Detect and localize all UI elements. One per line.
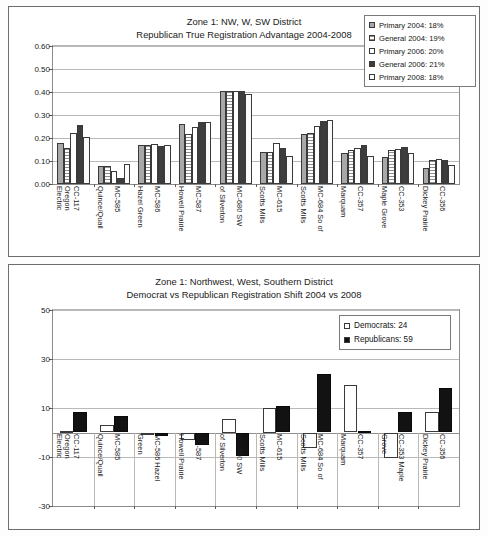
x-axis-label: Grove — [380, 434, 389, 454]
axis-notch — [418, 184, 419, 187]
gridline — [53, 408, 459, 409]
gridline — [53, 92, 459, 93]
legend-swatch-0 — [344, 323, 350, 329]
chart-subtitle-bottom: Democrat vs Republican Registration Shif… — [9, 288, 479, 301]
axis-notch — [378, 506, 379, 509]
legend-label-2: Primary 2006: 20% — [379, 47, 444, 56]
x-axis-label: Dickey Prairie — [421, 186, 430, 232]
axis-notch — [378, 184, 379, 187]
bar-top-g4-s4 — [245, 94, 252, 184]
axis-notch — [256, 184, 257, 187]
group-separator — [94, 433, 95, 507]
legend-item: General 2004: 19% — [369, 32, 470, 44]
bar-bottom-g5-s1 — [276, 406, 290, 433]
axis-notch — [297, 506, 298, 509]
x-axis-label: Scotts Mills — [299, 186, 308, 223]
bar-bottom-g7-s1 — [358, 431, 372, 433]
legend-item: Republicans: 59 — [344, 333, 445, 346]
x-axis-label: CC-357 — [356, 434, 365, 459]
chart-title-block-bottom: Zone 1: Northwest, West, Southern Distri… — [9, 275, 479, 301]
x-axis-label: CC-353 — [397, 186, 406, 211]
legend-label-0: Primary 2004: 18% — [379, 21, 444, 30]
x-axis-label: MC-684 So of — [316, 186, 325, 232]
screenshot-root: Zone 1: NW, W, SW District Republican Tr… — [0, 0, 488, 537]
x-axis-label: MC-586 — [153, 186, 162, 212]
group-separator — [418, 433, 419, 507]
chart-panel-top: Zone 1: NW, W, SW District Republican Tr… — [8, 6, 480, 257]
legend-swatch-1 — [369, 35, 375, 41]
x-axis-label: MC-587 — [194, 434, 203, 460]
legend-label-1: Republicans: 59 — [354, 335, 413, 344]
legend-swatch-2 — [369, 48, 375, 54]
x-axis-label: Quince/Quail — [96, 186, 105, 229]
x-axis-label: Green — [136, 434, 145, 455]
legend-label-4: Primary 2008: 18% — [379, 73, 444, 82]
y-tick-label-3: -10 — [38, 453, 50, 462]
bar-top-g8-s4 — [408, 153, 415, 184]
x-axis-label: MC-615 — [275, 186, 284, 212]
x-axis-label: MC-615 — [275, 434, 284, 460]
x-axis-label: Scotts Mills — [258, 186, 267, 223]
x-axis-label: CC-117 — [72, 434, 81, 459]
bar-bottom-g1-s1 — [114, 416, 128, 433]
x-axis-label: of Silverton — [218, 434, 227, 471]
chart-panel-bottom: Zone 1: Northwest, West, Southern Distri… — [8, 264, 480, 530]
gridline — [53, 138, 459, 139]
axis-notch — [175, 184, 176, 187]
y-tick-label-4: -30 — [38, 502, 50, 511]
bar-bottom-g9-s0 — [425, 412, 439, 433]
x-axis-label: Quince/Quail — [96, 434, 105, 477]
x-axis-label: MC-684 So of — [316, 434, 325, 480]
y-tick-label-4: 0.40 — [34, 88, 50, 97]
legend-item: Democrats: 24 — [344, 319, 445, 332]
bar-bottom-g0-s0 — [60, 431, 74, 433]
axis-notch — [94, 506, 95, 509]
y-tick-label-1: 0.10 — [34, 157, 50, 166]
legend-label-0: Democrats: 24 — [354, 321, 407, 330]
gridline — [53, 115, 459, 116]
axis-notch — [337, 506, 338, 509]
x-axis-label: Scotts Mills — [258, 434, 267, 471]
gridline — [53, 310, 459, 311]
x-axis-label: CC-356 — [438, 434, 447, 459]
group-separator — [256, 433, 257, 507]
x-axis-label: MC-587 — [194, 186, 203, 212]
x-axis-label: Howell Prairie — [177, 186, 186, 232]
axis-notch — [297, 184, 298, 187]
bar-top-g2-s4 — [164, 145, 171, 184]
legend-item: General 2006: 21% — [369, 58, 470, 70]
y-tick-label-5: 0.50 — [34, 65, 50, 74]
x-axis-label: MC-586 Hazel — [153, 434, 162, 481]
legend-label-3: General 2006: 21% — [379, 60, 444, 69]
y-tick-label-3: 0.30 — [34, 111, 50, 120]
bar-bottom-g6-s1 — [317, 374, 331, 433]
bar-top-g6-s4 — [327, 120, 334, 184]
bar-top-g1-s4 — [124, 164, 131, 184]
x-axis-label: MC-680 SW — [235, 434, 244, 474]
bar-bottom-g9-s1 — [439, 388, 453, 432]
x-axis-label: CC-357 — [356, 186, 365, 211]
bar-top-g3-s4 — [205, 122, 212, 184]
axis-notch — [175, 506, 176, 509]
bar-bottom-g1-s0 — [100, 425, 114, 433]
bar-bottom-g5-s0 — [263, 408, 277, 433]
group-separator — [215, 433, 216, 507]
y-tick-label-2: 10 — [41, 404, 50, 413]
x-axis-label: Howell Prairie — [177, 434, 186, 480]
legend-label-1: General 2004: 19% — [379, 34, 444, 43]
bar-bottom-g4-s0 — [222, 419, 236, 433]
x-axis-label: MC-680 SW — [235, 186, 244, 226]
bar-bottom-g7-s0 — [344, 385, 358, 433]
x-axis-label: CC-117 — [72, 186, 81, 211]
bar-top-g5-s4 — [286, 156, 293, 184]
bar-bottom-g0-s1 — [73, 412, 87, 433]
bar-bottom-g8-s1 — [398, 412, 412, 432]
y-tick-label-0: 50 — [41, 306, 50, 315]
legend-swatch-4 — [369, 74, 375, 80]
x-axis-label: CC-356 — [438, 186, 447, 211]
y-tick-label-2: 0.20 — [34, 134, 50, 143]
group-separator — [175, 433, 176, 507]
x-axis-label: Marquam — [339, 434, 348, 465]
x-axis-label: of Silverton — [218, 186, 227, 223]
chart-title-bottom: Zone 1: Northwest, West, Southern Distri… — [9, 275, 479, 288]
